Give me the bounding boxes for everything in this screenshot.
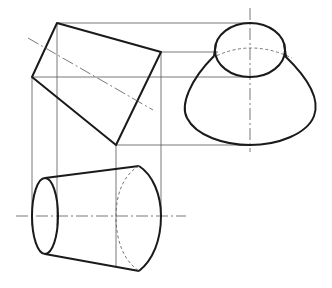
horizontal-frustum-view — [16, 166, 186, 271]
inclined-frustum-view — [28, 23, 161, 145]
inclined-axis-centerline — [28, 38, 153, 110]
technical-drawing — [0, 0, 332, 288]
upright-frustum-view — [185, 8, 316, 152]
